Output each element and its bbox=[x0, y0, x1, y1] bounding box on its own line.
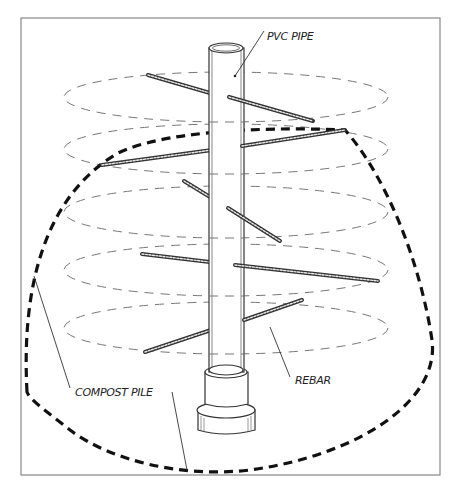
label-pvc-pipe: PVC PIPE bbox=[267, 30, 314, 43]
pipe-tube-bottom bbox=[209, 365, 243, 375]
compost-diagram: PVC PIPE REBAR COMPOST PILE bbox=[0, 0, 456, 492]
pipe-tube bbox=[209, 48, 244, 372]
label-rebar: REBAR bbox=[295, 374, 331, 387]
pipe-top-opening bbox=[213, 45, 240, 51]
label-compost-pile: COMPOST PILE bbox=[75, 386, 153, 399]
